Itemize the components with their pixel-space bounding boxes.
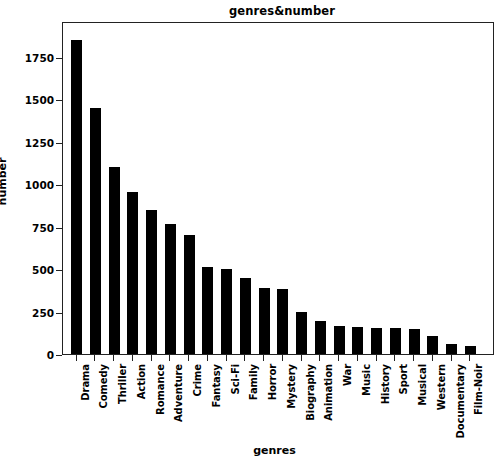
bar <box>465 346 476 354</box>
bar <box>202 267 213 354</box>
x-axis-label: genres <box>62 444 487 457</box>
x-tick-mark <box>376 355 377 361</box>
bar <box>184 235 195 354</box>
x-tick-mark <box>113 355 114 361</box>
x-tick-mark <box>151 355 152 361</box>
bar <box>296 312 307 354</box>
x-tick-label: Fantasy <box>211 364 222 407</box>
x-tick-label: Biography <box>305 364 316 421</box>
bar <box>352 327 363 354</box>
bar <box>221 269 232 354</box>
x-tick-label: Music <box>361 364 372 396</box>
x-tick-label: Action <box>136 364 147 399</box>
x-tick-mark <box>357 355 358 361</box>
x-tick-label: Mystery <box>286 364 297 409</box>
x-tick-label: Romance <box>155 364 166 415</box>
bar <box>240 278 251 354</box>
x-tick-mark <box>394 355 395 361</box>
bar <box>409 329 420 354</box>
y-tick-label: 1500 <box>10 94 54 106</box>
bar <box>390 328 401 354</box>
x-tick-mark <box>301 355 302 361</box>
x-tick-label: War <box>342 364 353 386</box>
x-tick-label: Comedy <box>98 364 109 409</box>
bar <box>259 288 270 354</box>
x-tick-mark <box>169 355 170 361</box>
x-tick-mark <box>226 355 227 361</box>
bar <box>146 210 157 354</box>
x-tick-mark <box>432 355 433 361</box>
bar <box>165 224 176 354</box>
x-tick-mark <box>188 355 189 361</box>
bar <box>446 344 457 354</box>
y-tick-label: 0 <box>10 349 54 361</box>
x-tick-mark <box>132 355 133 361</box>
bar <box>90 108 101 354</box>
bar <box>427 336 438 354</box>
x-tick-label: Adventure <box>173 364 184 422</box>
plot-area <box>62 22 494 355</box>
x-tick-label: Horror <box>267 364 278 400</box>
y-axis-label: number <box>0 158 9 206</box>
x-tick-label: Sport <box>398 364 409 394</box>
x-tick-mark <box>207 355 208 361</box>
y-tick-label: 750 <box>10 222 54 234</box>
x-tick-label: Family <box>248 364 259 400</box>
x-tick-label: Drama <box>80 364 91 401</box>
x-tick-label: Musical <box>417 364 428 406</box>
bar <box>334 326 345 354</box>
chart-title: genres&number <box>62 4 498 18</box>
x-tick-label: Western <box>436 364 447 410</box>
x-tick-label: Animation <box>323 364 334 421</box>
bar <box>371 328 382 354</box>
bars-layer <box>63 23 493 354</box>
x-tick-mark <box>76 355 77 361</box>
x-tick-label: Documentary <box>455 364 466 438</box>
bar <box>315 321 326 354</box>
bar <box>277 289 288 354</box>
x-tick-mark <box>338 355 339 361</box>
x-tick-mark <box>469 355 470 361</box>
x-tick-mark <box>263 355 264 361</box>
bar <box>127 192 138 354</box>
y-tick-mark <box>56 355 62 356</box>
bar <box>71 40 82 354</box>
y-tick-label: 250 <box>10 307 54 319</box>
x-tick-mark <box>94 355 95 361</box>
x-tick-mark <box>244 355 245 361</box>
x-tick-label: Sci-Fi <box>230 364 241 394</box>
y-tick-label: 1750 <box>10 52 54 64</box>
x-tick-label: Thriller <box>117 364 128 404</box>
y-tick-label: 1000 <box>10 179 54 191</box>
x-tick-label: History <box>380 364 391 404</box>
y-tick-label: 1250 <box>10 137 54 149</box>
x-tick-mark <box>282 355 283 361</box>
x-tick-label: Film-Noir <box>473 364 484 415</box>
y-tick-label: 500 <box>10 264 54 276</box>
x-tick-mark <box>451 355 452 361</box>
bar <box>109 167 120 354</box>
x-tick-mark <box>413 355 414 361</box>
x-tick-label: Crime <box>192 364 203 396</box>
x-tick-mark <box>319 355 320 361</box>
